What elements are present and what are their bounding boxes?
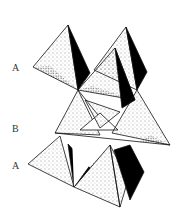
tetrahedra-stack-diagram xyxy=(0,0,183,221)
tetrahedron-a-top-left xyxy=(33,25,90,90)
